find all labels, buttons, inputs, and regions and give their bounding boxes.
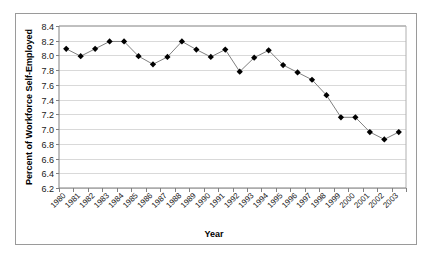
x-axis-title: Year xyxy=(204,229,224,239)
svg-text:8.0: 8.0 xyxy=(41,51,54,61)
svg-text:6.6: 6.6 xyxy=(41,155,54,165)
svg-text:6.8: 6.8 xyxy=(41,140,54,150)
svg-text:2003: 2003 xyxy=(381,191,400,210)
y-axis-ticks: 8.48.28.07.87.67.47.27.06.86.66.46.2 xyxy=(41,22,59,194)
svg-text:7.2: 7.2 xyxy=(41,110,54,120)
svg-text:7.0: 7.0 xyxy=(41,125,54,135)
svg-text:6.2: 6.2 xyxy=(41,184,54,194)
svg-text:7.8: 7.8 xyxy=(41,66,54,76)
y-axis-title: Percent of Workforce Self-Employed xyxy=(24,29,34,185)
plot-background xyxy=(59,26,406,188)
chart-svg: 8.48.28.07.87.67.47.27.06.86.66.46.2 198… xyxy=(0,0,431,259)
svg-text:6.4: 6.4 xyxy=(41,169,54,179)
svg-text:8.4: 8.4 xyxy=(41,22,54,32)
svg-text:7.4: 7.4 xyxy=(41,96,54,106)
svg-text:8.2: 8.2 xyxy=(41,37,54,47)
svg-text:7.6: 7.6 xyxy=(41,81,54,91)
line-chart: 8.48.28.07.87.67.47.27.06.86.66.46.2 198… xyxy=(0,0,431,259)
chart-screenshot: 8.48.28.07.87.67.47.27.06.86.66.46.2 198… xyxy=(0,0,431,259)
x-axis-ticks: 1980198119821983198419851986198719881989… xyxy=(49,188,407,210)
